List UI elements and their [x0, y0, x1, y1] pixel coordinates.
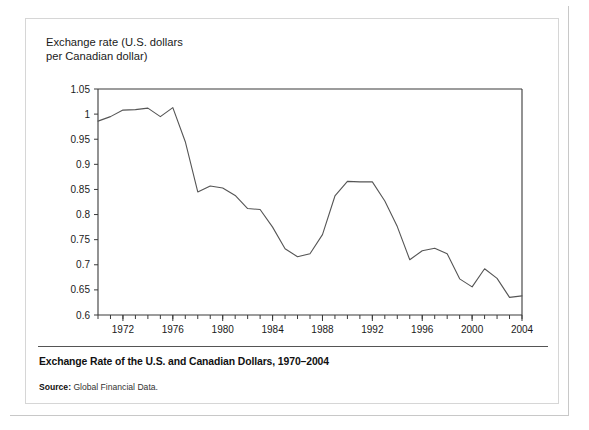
- svg-text:0.9: 0.9: [76, 159, 90, 170]
- svg-text:1996: 1996: [411, 324, 434, 335]
- svg-text:0.95: 0.95: [71, 134, 91, 145]
- svg-text:2004: 2004: [511, 324, 534, 335]
- svg-text:1984: 1984: [261, 324, 284, 335]
- svg-text:0.85: 0.85: [71, 184, 91, 195]
- caption-divider: [38, 346, 548, 347]
- svg-text:1980: 1980: [212, 324, 235, 335]
- figure-panel: Exchange rate (U.S. dollars per Canadian…: [25, 18, 559, 404]
- svg-text:0.7: 0.7: [76, 259, 90, 270]
- svg-text:1972: 1972: [112, 324, 135, 335]
- chart-plot-area: 0.60.650.70.750.80.850.90.9511.051972197…: [26, 19, 560, 349]
- figure-caption: Exchange Rate of the U.S. and Canadian D…: [39, 356, 329, 367]
- exchange-rate-line-chart: 0.60.650.70.750.80.850.90.9511.051972197…: [26, 19, 560, 349]
- source-label: Source:: [39, 382, 71, 392]
- svg-text:1976: 1976: [162, 324, 185, 335]
- svg-text:0.75: 0.75: [71, 234, 91, 245]
- figure-outer-frame: Exchange rate (U.S. dollars per Canadian…: [10, 6, 569, 416]
- figure-source: Source: Global Financial Data.: [39, 382, 158, 392]
- svg-text:1: 1: [84, 109, 90, 120]
- svg-text:1988: 1988: [311, 324, 334, 335]
- svg-text:0.65: 0.65: [71, 284, 91, 295]
- svg-text:0.8: 0.8: [76, 209, 90, 220]
- svg-text:1992: 1992: [361, 324, 384, 335]
- svg-text:2000: 2000: [461, 324, 484, 335]
- svg-text:0.6: 0.6: [76, 310, 90, 321]
- source-text: Global Financial Data.: [71, 382, 158, 392]
- svg-text:1.05: 1.05: [71, 84, 91, 95]
